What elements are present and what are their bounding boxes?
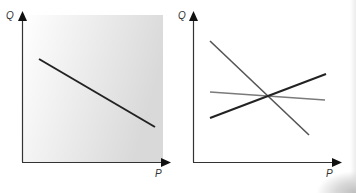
left-x-arrow-icon <box>161 158 171 167</box>
left-y-axis-label: Q <box>6 10 14 21</box>
left-x-axis-label: P <box>155 168 162 179</box>
right-chart: Q P <box>178 10 342 179</box>
diagram-stage: Q P Q P <box>0 0 356 193</box>
right-x-arrow-icon <box>332 158 342 167</box>
page-edge-shadow <box>350 0 356 193</box>
right-rising-line <box>210 74 326 118</box>
right-steep-line <box>210 41 309 135</box>
left-chart: Q P <box>6 10 171 179</box>
right-y-arrow-icon <box>189 11 198 21</box>
left-shaded-region <box>23 15 163 162</box>
right-y-axis-label: Q <box>178 10 186 21</box>
diagram-svg: Q P Q P <box>0 0 356 193</box>
page-corner-curl <box>316 171 356 193</box>
